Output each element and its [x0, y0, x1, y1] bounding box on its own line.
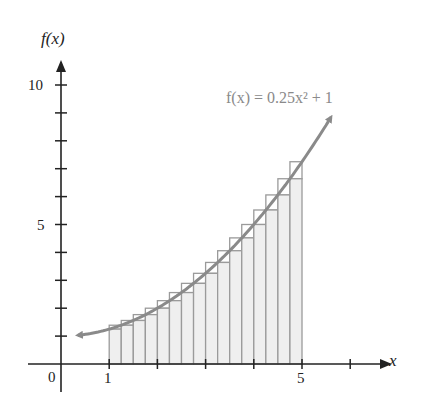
riemann-sum-chart [0, 0, 430, 413]
y-tick-label-5: 5 [37, 218, 45, 233]
filled-rectangle [230, 251, 242, 364]
filled-rectangle [169, 301, 181, 364]
filled-rectangle [242, 238, 254, 364]
filled-rectangle [290, 179, 302, 364]
origin-label: 0 [48, 370, 56, 385]
filled-rectangle [109, 329, 121, 364]
filled-rectangle [145, 315, 157, 364]
filled-rectangle [206, 273, 218, 364]
filled-rectangle [133, 320, 145, 364]
filled-rectangle [194, 283, 206, 364]
filled-rectangle [266, 210, 278, 364]
filled-rectangle [121, 325, 133, 364]
x-tick-label-1: 1 [104, 371, 112, 386]
y-axis-label: f(x) [41, 30, 65, 47]
filled-rectangle [254, 225, 266, 365]
y-tick-label-10: 10 [28, 78, 43, 93]
filled-rectangle [182, 293, 194, 364]
x-tick-label-5: 5 [297, 371, 305, 386]
filled-rectangle [218, 262, 230, 364]
function-label: f(x) = 0.25x² + 1 [226, 90, 333, 106]
filled-rectangle [157, 308, 169, 364]
x-axis-label: x [389, 352, 397, 369]
filled-rectangle [278, 195, 290, 364]
